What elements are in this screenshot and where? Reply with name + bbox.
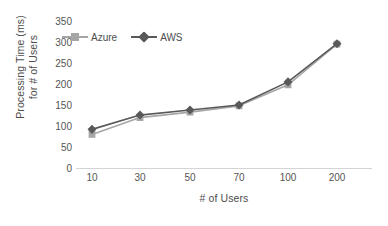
x-axis-tick-label: 70 bbox=[233, 172, 244, 183]
x-axis-title: # of Users bbox=[76, 192, 372, 204]
series-line-azure bbox=[92, 44, 337, 134]
y-axis-tick-label: 200 bbox=[46, 79, 72, 90]
y-axis-tick-label: 350 bbox=[46, 16, 72, 27]
x-axis-tick-label: 100 bbox=[280, 172, 297, 183]
y-axis-tick-label: 0 bbox=[46, 163, 72, 174]
y-axis-title-line-2: for # of Users bbox=[27, 0, 40, 143]
x-axis-tick-label: 50 bbox=[184, 172, 195, 183]
y-axis-tick-label: 50 bbox=[46, 142, 72, 153]
legend-entry-aws[interactable]: AWS bbox=[131, 29, 182, 45]
chart-legend: AzureAWS bbox=[62, 29, 183, 45]
x-axis-tick-label: 30 bbox=[134, 172, 145, 183]
x-axis-tick-label: 200 bbox=[329, 172, 346, 183]
legend-key bbox=[131, 31, 157, 43]
x-axis-tick-labels: 10305070100200 bbox=[76, 172, 372, 186]
processing-time-line-chart: Processing Time (ms) for # of Users 0501… bbox=[0, 0, 388, 226]
y-axis-title: Processing Time (ms) for # of Users bbox=[14, 0, 44, 143]
legend-key bbox=[62, 31, 88, 43]
series-line-aws bbox=[92, 44, 337, 130]
legend-label: AWS bbox=[160, 32, 182, 43]
x-axis-tick-label: 10 bbox=[86, 172, 97, 183]
legend-entry-azure[interactable]: Azure bbox=[62, 29, 117, 45]
y-axis-tick-label: 100 bbox=[46, 121, 72, 132]
legend-marker-square bbox=[71, 33, 79, 41]
legend-label: Azure bbox=[91, 32, 117, 43]
x-axis-line bbox=[76, 168, 372, 169]
y-axis-tick-label: 150 bbox=[46, 100, 72, 111]
y-axis-tick-label: 250 bbox=[46, 58, 72, 69]
y-axis-title-line-1: Processing Time (ms) bbox=[14, 0, 27, 143]
legend-marker-diamond bbox=[138, 31, 149, 42]
